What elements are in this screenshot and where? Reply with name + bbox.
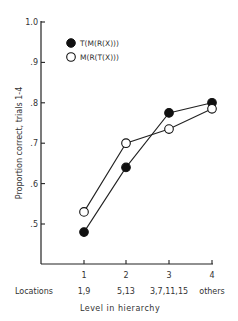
series-line-filled: [84, 103, 212, 232]
series-line-open: [84, 109, 212, 212]
y-tick-label: .8: [30, 99, 38, 108]
legend: T(M(R(X))) M(R(T(X))): [67, 39, 119, 62]
y-ticks: 1.0.9.8.7.6.5: [25, 18, 45, 229]
y-tick-label: .7: [30, 139, 38, 148]
x-tick-label: 4: [209, 271, 214, 280]
y-tick-label: .6: [30, 180, 38, 189]
location-label: 3,7,11,15: [150, 287, 188, 296]
filled-circle-marker: [122, 163, 131, 172]
legend-label-filled: T(M(R(X))): [79, 39, 119, 48]
y-axis-label: Proportion correct, trials 1-4: [15, 87, 24, 199]
open-circle-marker: [165, 125, 174, 134]
location-label: others: [199, 287, 224, 296]
location-label: 1,9: [78, 287, 91, 296]
locations-label: Locations: [15, 287, 53, 296]
legend-open-circle-icon: [67, 53, 76, 62]
location-label: 5,13: [117, 287, 135, 296]
open-circle-marker: [122, 139, 131, 148]
filled-circle-marker: [165, 109, 174, 118]
x-tick-label: 3: [166, 271, 171, 280]
legend-label-open: M(R(T(X))): [80, 53, 119, 62]
x-ticks: 11,925,1333,7,11,154others: [78, 260, 225, 296]
line-chart: 1.0.9.8.7.6.5 11,925,1333,7,11,154others…: [0, 0, 238, 321]
y-tick-label: .5: [30, 220, 38, 229]
x-axis-label: Level in hierarchy: [80, 304, 160, 313]
legend-filled-circle-icon: [67, 39, 76, 48]
series-group: [80, 99, 217, 237]
y-tick-label: .9: [30, 58, 38, 67]
open-circle-marker: [208, 105, 217, 114]
x-tick-label: 1: [81, 271, 86, 280]
open-circle-marker: [80, 208, 89, 217]
y-tick-label: 1.0: [25, 18, 38, 27]
filled-circle-marker: [80, 228, 89, 237]
x-tick-label: 2: [123, 271, 128, 280]
